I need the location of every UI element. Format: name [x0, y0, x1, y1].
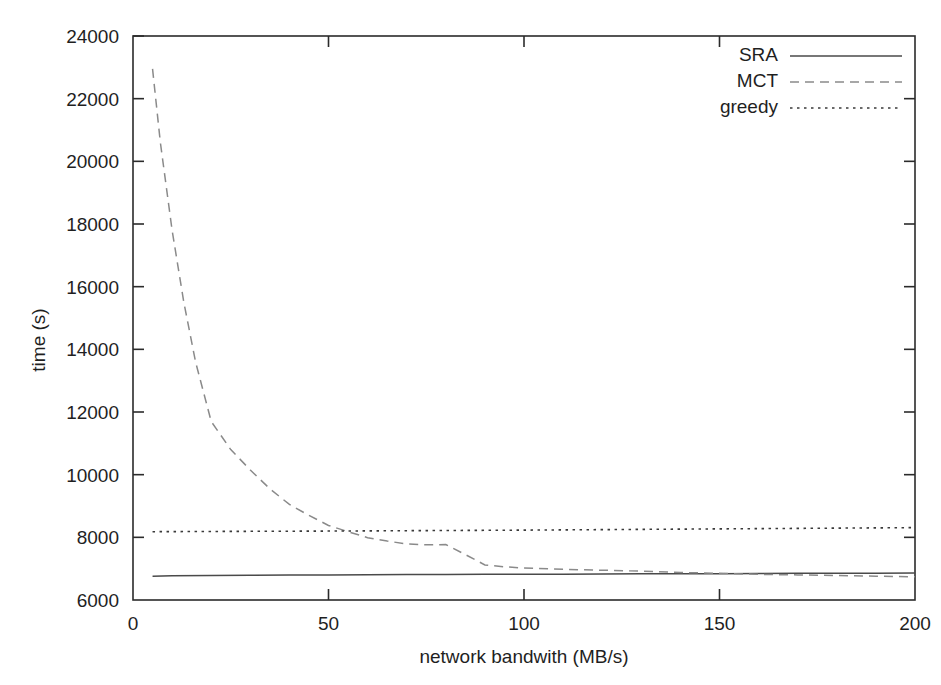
- y-tick-label: 6000: [77, 590, 119, 611]
- chart-legend: SRAMCTgreedy: [700, 40, 912, 117]
- y-tick-label: 22000: [66, 89, 119, 110]
- x-axis-ticks: [329, 36, 720, 600]
- legend-label-sra: SRA: [739, 44, 778, 65]
- legend-label-greedy: greedy: [720, 96, 779, 117]
- y-axis-tick-labels: 6000800010000120001400016000180002000022…: [66, 26, 119, 611]
- x-tick-label: 50: [318, 613, 339, 634]
- series-line-mct: [153, 69, 915, 577]
- line-chart: 6000800010000120001400016000180002000022…: [0, 0, 941, 685]
- series-line-greedy: [153, 528, 915, 532]
- x-tick-label: 0: [128, 613, 139, 634]
- y-tick-label: 24000: [66, 26, 119, 47]
- y-tick-label: 18000: [66, 214, 119, 235]
- series-group: [153, 69, 915, 577]
- chart-figure: 6000800010000120001400016000180002000022…: [0, 0, 941, 685]
- y-tick-label: 14000: [66, 339, 119, 360]
- x-axis-tick-labels: 050100150200: [128, 613, 931, 634]
- y-tick-label: 10000: [66, 465, 119, 486]
- y-axis-ticks: [133, 36, 915, 537]
- y-tick-label: 16000: [66, 277, 119, 298]
- plot-frame: [133, 36, 915, 600]
- y-tick-label: 20000: [66, 151, 119, 172]
- x-tick-label: 200: [899, 613, 931, 634]
- y-tick-label: 12000: [66, 402, 119, 423]
- x-axis-title: network bandwith (MB/s): [419, 646, 628, 667]
- x-tick-label: 150: [704, 613, 736, 634]
- y-axis-title: time (s): [28, 308, 49, 371]
- legend-label-mct: MCT: [737, 70, 779, 91]
- x-tick-label: 100: [508, 613, 540, 634]
- y-tick-label: 8000: [77, 527, 119, 548]
